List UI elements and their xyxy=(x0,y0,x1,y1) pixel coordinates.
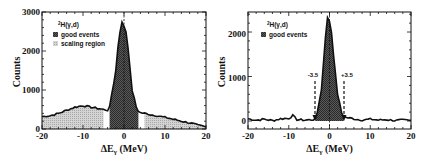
left-legend-scaling-swatch xyxy=(53,41,58,46)
left-xtick-neg10: -10 xyxy=(77,131,89,141)
right-anno-neg3.5: -3.5 xyxy=(308,72,319,78)
left-y-axis-title: Counts xyxy=(11,57,22,88)
right-ytick-2000: 2000 xyxy=(228,29,247,39)
left-xtick-10: 10 xyxy=(161,131,171,141)
left-legend-scaling-label: scaling region xyxy=(61,40,105,48)
left-ytick-1000: 1000 xyxy=(22,85,41,95)
left-panel: 0 1000 2000 3000 -20 -10 0 10 20 Counts … xyxy=(11,7,211,156)
right-xlabel-main: ΔE xyxy=(306,143,319,154)
right-y-axis-title: Counts xyxy=(216,57,227,88)
right-xtick-0: 0 xyxy=(327,131,332,141)
right-anno-pos3.5: +3.5 xyxy=(341,72,354,78)
left-xtick-20: 20 xyxy=(202,131,212,141)
left-legend-title-text: H(γ,d) xyxy=(61,21,79,29)
left-xtick-0: 0 xyxy=(122,131,127,141)
left-xtick-neg20: -20 xyxy=(36,131,48,141)
right-legend-title: 2H(γ,d) xyxy=(267,21,288,29)
left-xlabel-unit: (MeV) xyxy=(117,143,147,155)
right-xtick-20: 20 xyxy=(407,131,417,141)
left-legend-title: 2H(γ,d) xyxy=(58,21,79,29)
right-xtick-neg10: -10 xyxy=(283,131,295,141)
left-x-axis-title: ΔEγ (MeV) xyxy=(101,143,148,156)
left-legend-good-swatch xyxy=(53,32,58,37)
right-legend-title-text: H(γ,d) xyxy=(270,21,288,29)
right-ytick-0: 0 xyxy=(242,116,247,126)
right-xtick-neg20: -20 xyxy=(242,131,254,141)
left-legend-good-label: good events xyxy=(61,31,100,39)
right-legend-good-swatch xyxy=(261,32,266,37)
right-xlabel-unit: (MeV) xyxy=(322,143,352,155)
right-legend: 2H(γ,d) good events xyxy=(261,21,308,39)
left-ytick-3000: 3000 xyxy=(22,7,41,17)
right-x-axis-title: ΔEγ (MeV) xyxy=(306,143,353,156)
figure: 0 1000 2000 3000 -20 -10 0 10 20 Counts … xyxy=(0,0,426,160)
left-xlabel-main: ΔE xyxy=(101,143,114,154)
right-panel: -3.5 +3.5 0 1000 2000 -20 -10 0 10 20 Co… xyxy=(216,12,416,156)
right-ytick-1000: 1000 xyxy=(228,73,247,83)
right-legend-good-label: good events xyxy=(269,31,308,39)
left-ytick-2000: 2000 xyxy=(22,46,41,56)
right-xtick-10: 10 xyxy=(366,131,376,141)
left-legend: 2H(γ,d) good events scaling region xyxy=(53,21,105,48)
